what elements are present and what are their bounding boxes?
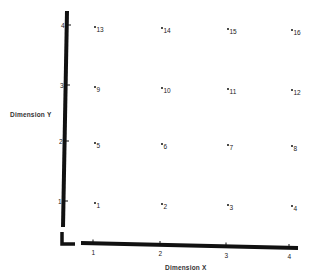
y-tick-label: 2 — [59, 138, 63, 145]
x-axis-label: Dimension X — [165, 264, 207, 271]
point-label: 6 — [164, 143, 168, 150]
data-point: 7 — [227, 144, 234, 151]
x-tick-label: 1 — [92, 249, 96, 256]
data-point: 6 — [161, 143, 168, 150]
point-label: 5 — [97, 142, 101, 149]
data-point: 5 — [94, 142, 101, 149]
point-label: 7 — [230, 144, 234, 151]
x-axis-line — [81, 243, 298, 248]
y-tick-label: 3 — [60, 82, 64, 89]
data-point: 14 — [161, 27, 171, 34]
y-tick-label: 1 — [58, 198, 62, 205]
data-point: 9 — [94, 86, 101, 93]
origin-corner — [62, 232, 75, 244]
point-label: 11 — [230, 88, 237, 95]
data-point: 16 — [291, 29, 301, 36]
y-axis-label: Dimension Y — [10, 111, 52, 118]
point-label: 10 — [164, 87, 172, 94]
y-axis-line — [63, 11, 67, 227]
point-label: 2 — [164, 203, 168, 210]
data-point: 8 — [291, 145, 298, 152]
point-label: 9 — [97, 86, 101, 93]
point-label: 8 — [294, 145, 298, 152]
data-point: 13 — [94, 26, 104, 33]
point-label: 13 — [97, 26, 105, 33]
point-label: 3 — [230, 204, 234, 211]
point-label: 12 — [294, 89, 302, 96]
x-tick-label: 3 — [225, 252, 229, 259]
data-point: 11 — [227, 88, 237, 95]
x-tick-label: 4 — [288, 253, 292, 260]
data-point: 4 — [291, 205, 298, 212]
point-label: 1 — [97, 202, 101, 209]
point-label: 14 — [164, 27, 172, 34]
data-point: 2 — [161, 203, 168, 210]
scatter-chart: 1234 1234 12345678910111213141516 Dimens… — [0, 0, 309, 280]
data-point: 1 — [94, 202, 101, 209]
x-tick-label: 2 — [159, 250, 163, 257]
data-point: 3 — [227, 204, 234, 211]
point-label: 4 — [294, 205, 298, 212]
data-point: 10 — [161, 87, 171, 94]
y-tick-label: 4 — [61, 22, 65, 29]
point-label: 16 — [294, 29, 302, 36]
point-label: 15 — [230, 28, 238, 35]
data-point: 15 — [227, 28, 237, 35]
data-points: 12345678910111213141516 — [94, 26, 301, 212]
data-point: 12 — [291, 89, 301, 96]
